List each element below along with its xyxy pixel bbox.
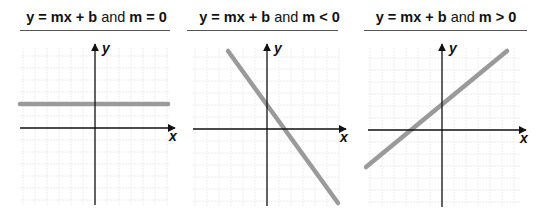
x-axis-label: x [339, 129, 349, 145]
y-axis-label: y [448, 40, 458, 56]
x-axis-label: x [519, 130, 529, 146]
line-negative-slope [228, 51, 338, 203]
plots-canvas: xyxyxy [0, 0, 544, 219]
y-axis-label: y [273, 40, 283, 56]
y-axis-label: y [101, 40, 111, 56]
line-positive-slope [366, 51, 507, 167]
x-axis-label: x [168, 128, 178, 144]
plotted-lines [20, 51, 507, 203]
